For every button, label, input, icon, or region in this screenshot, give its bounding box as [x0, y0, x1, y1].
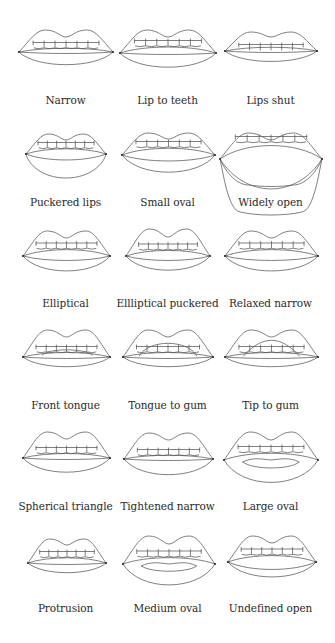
lower-lip-inner-line	[23, 256, 110, 261]
upper-lip-inner-line	[122, 148, 215, 155]
lower-lip-inner-line	[126, 256, 210, 261]
lip-shape-cell-tip-to-gum: Tip to gum	[215, 305, 326, 407]
tooth-bottom	[88, 453, 96, 454]
mouth-corner-left	[122, 356, 124, 358]
tooth-bottom	[251, 352, 260, 353]
upper-lip-inner-line	[220, 146, 322, 160]
lower-lip-outline	[23, 256, 110, 271]
mouth-corner-left	[22, 255, 24, 257]
mouth-corner-left	[125, 255, 127, 257]
tooth-bottom	[262, 249, 271, 250]
mouth-corner-left	[25, 153, 27, 155]
mouth-corner-right	[317, 255, 319, 257]
tooth-bottom	[86, 557, 93, 558]
lip-drawing-spherical-triangle	[10, 406, 121, 486]
tooth-bottom	[169, 46, 178, 47]
lip-shape-cell-medium-oval: Medium oval	[112, 508, 223, 610]
upper-lip-inner-line	[228, 556, 316, 562]
lip-shape-cell-widely-open: Widely open	[215, 102, 326, 204]
lip-seam-line	[225, 357, 318, 359]
mouth-corner-right	[212, 356, 214, 358]
mouth-corner-right	[316, 50, 318, 52]
lip-shape-label: Undefined open	[207, 602, 334, 614]
mouth-corner-left	[122, 563, 124, 565]
lip-shape-cell-elliptical: Elliptical	[10, 203, 121, 305]
tooth-bottom	[283, 452, 292, 453]
lip-drawing-widely-open	[215, 102, 326, 182]
tooth-bottom	[261, 452, 270, 453]
mouth-corner-right	[109, 255, 111, 257]
lip-shape-cell-front-tongue: Front tongue	[10, 305, 121, 407]
lip-shape-cell-elliptical-puckered: Ellliptical puckered	[112, 203, 223, 305]
mouth-corner-left	[22, 457, 24, 459]
lower-lip-inner-line	[220, 159, 322, 187]
mouth-corner-left	[121, 154, 123, 156]
tooth-bottom	[68, 249, 76, 250]
tooth-bottom	[58, 148, 65, 149]
lower-lip-outline	[225, 256, 318, 271]
tooth-bottom	[272, 142, 282, 143]
tooth-bottom	[149, 455, 157, 456]
lip-seam-line	[23, 458, 110, 460]
upper-lip-outline	[23, 330, 110, 357]
tooth-bottom	[159, 147, 168, 148]
lip-drawing-tightened-narrow	[112, 406, 223, 486]
lip-shape-cell-small-oval: Small oval	[112, 102, 223, 204]
mouth-corner-left	[123, 458, 125, 460]
tooth-bottom	[45, 48, 54, 49]
lip-drawing-protrusion	[10, 508, 121, 588]
tooth-bottom	[77, 557, 84, 558]
mouth-corner-right	[317, 459, 319, 461]
lip-shape-cell-relaxed-narrow: Relaxed narrow	[215, 203, 326, 305]
lip-seam-line	[28, 563, 106, 565]
upper-lip-outline	[23, 432, 110, 458]
lip-drawing-relaxed-narrow	[215, 203, 326, 283]
tooth-bottom	[137, 147, 146, 148]
tooth-bottom	[260, 142, 270, 143]
lip-shape-cell-undefined-open: Undefined open	[215, 508, 326, 610]
upper-lip-inner-line	[23, 353, 110, 358]
upper-lip-inner-line	[28, 558, 106, 563]
lip-seam-line	[225, 51, 317, 53]
tooth-bottom	[47, 249, 55, 250]
tooth-bottom	[57, 453, 65, 454]
tooth-bottom	[239, 452, 248, 453]
tooth-bottom	[41, 557, 48, 558]
tooth-bottom	[236, 142, 246, 143]
upper-lip-inner-line	[19, 48, 113, 52]
lip-shape-cell-spherical-triangle: Spherical triangle	[10, 406, 121, 508]
upper-lip-inner-line	[120, 47, 216, 53]
lip-drawing-tongue-to-gum	[112, 305, 223, 385]
tooth-bottom	[86, 148, 93, 149]
upper-lip-inner-line	[225, 353, 318, 358]
tooth-bottom	[273, 555, 281, 556]
tooth-bottom	[170, 557, 179, 558]
lower-lip-outline	[224, 460, 318, 483]
lower-lip-outline	[23, 458, 110, 472]
upper-lip-inner-line	[225, 250, 318, 256]
lower-lip-outline	[19, 52, 113, 65]
tooth-bottom	[39, 148, 46, 149]
tooth-bottom	[159, 250, 167, 251]
tooth-bottom	[283, 352, 292, 353]
lower-lip-outline	[122, 155, 215, 172]
upper-lip-inner-line	[123, 353, 213, 358]
tooth-bottom	[170, 147, 179, 148]
tooth-bottom	[248, 142, 258, 143]
mouth-corner-right	[315, 561, 317, 563]
mouth-corner-left	[219, 158, 221, 160]
lower-lip-inner-line	[243, 459, 299, 468]
upper-lip-inner-line	[23, 250, 110, 256]
tooth-bottom	[191, 147, 200, 148]
tooth-bottom	[78, 249, 86, 250]
lower-lip-inner-line	[141, 563, 196, 572]
lip-drawing-lips-shut	[215, 0, 326, 80]
tooth-bottom	[272, 452, 281, 453]
mouth-corner-right	[212, 458, 214, 460]
lower-lip-outline	[120, 53, 216, 67]
lip-seam-line	[120, 53, 216, 55]
lower-lip-outline	[126, 256, 210, 270]
tooth-bottom	[180, 455, 188, 456]
tooth-bottom	[148, 147, 157, 148]
tooth-bottom	[149, 250, 157, 251]
